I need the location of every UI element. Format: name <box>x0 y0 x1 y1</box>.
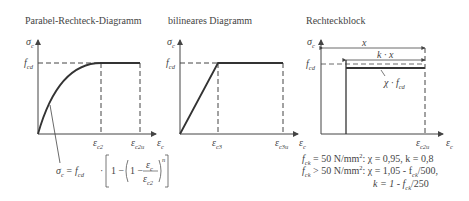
diagram-title: bilineares Diagramm <box>168 15 252 26</box>
x-axis-label: εc <box>157 137 164 150</box>
formula-exponent: n <box>162 156 165 163</box>
svg-text:σc= fcd: σc= fcd <box>56 165 85 178</box>
rectangle-block-diagram: Rechteckblock σc εc fcd x k · x χ · fcd … <box>302 15 453 191</box>
bilinear-diagram: bilineares Diagramm σc εc fcd εc3 εc3u <box>166 15 306 150</box>
x-axis-label: εc <box>299 137 306 150</box>
note-line-3: k = 1 - fck/250 <box>373 178 429 191</box>
bilinear-curve <box>180 63 283 134</box>
diagram-title: Rechteckblock <box>306 15 365 26</box>
tick-eps-c3: εc3 <box>212 137 223 150</box>
stress-formula: σc= fcd · 1 − 1 − εc εc2 n <box>56 155 168 187</box>
note-line-1: fck = 50 N/mm2: χ = 0,95, k = 0,8 <box>302 152 434 166</box>
y-axis-label: σc <box>167 36 175 49</box>
block-label-leader <box>381 70 385 76</box>
svg-text:1 −: 1 − <box>130 165 144 176</box>
tick-eps-c3u: εc3u <box>275 137 289 150</box>
dimension-x-label: x <box>361 37 367 48</box>
note-line-2: fck > 50 N/mm2: χ = 1,05 - fck/500, <box>302 164 438 178</box>
formula-denominator: εc2 <box>143 173 154 186</box>
y-axis-label: σc <box>307 36 315 49</box>
dimension-kx-label: k · x <box>377 49 394 60</box>
parabola-rectangle-diagram: Parabel-Rechteck-Diagramm σc εc fcd εc2 … <box>24 15 168 187</box>
diagram-title: Parabel-Rechteck-Diagramm <box>25 15 142 26</box>
formula-numerator: εc <box>146 159 153 172</box>
block-label: χ · fcd <box>383 77 406 90</box>
tick-eps-c2: εc2 <box>93 137 104 150</box>
svg-text:1 −: 1 − <box>111 165 125 176</box>
tick-eps-c2u: εc2u <box>416 137 430 150</box>
diagram-canvas: Parabel-Rechteck-Diagramm σc εc fcd εc2 … <box>0 0 469 201</box>
fcd-label: fcd <box>24 57 34 70</box>
tick-eps-c2u: εc2u <box>131 137 145 150</box>
fcd-label: fcd <box>166 57 176 70</box>
y-axis-label: σc <box>26 36 34 49</box>
fcd-label: fcd <box>306 58 316 71</box>
x-axis-label: εc <box>446 137 453 150</box>
svg-text:·: · <box>100 165 103 176</box>
